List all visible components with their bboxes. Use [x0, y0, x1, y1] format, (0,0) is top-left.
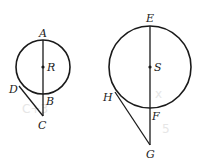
label-R: R	[46, 61, 55, 74]
label-H: H	[102, 91, 113, 104]
center-point-R	[41, 65, 44, 68]
faint-mark-left: C+3	[22, 102, 48, 116]
label-C: C	[38, 119, 47, 132]
label-F: F	[151, 110, 160, 123]
geometry-diagram: C+3 x 5 A R D B C E S H F G	[0, 0, 204, 166]
center-point-S	[148, 65, 151, 68]
label-A: A	[38, 27, 47, 40]
label-G: G	[146, 148, 155, 161]
label-B: B	[45, 95, 54, 108]
faint-mark-5: 5	[162, 122, 170, 136]
label-E: E	[145, 12, 154, 25]
figure-circle-S: E S H F G	[102, 12, 191, 161]
faint-mark-x: x	[155, 87, 162, 101]
tangent-line-HG	[115, 92, 150, 145]
label-D: D	[8, 83, 18, 96]
figure-circle-R: A R D B C	[8, 27, 70, 132]
label-S: S	[154, 61, 162, 74]
